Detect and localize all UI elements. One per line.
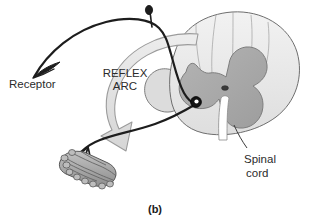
motor-neuron-cell-body — [191, 97, 202, 108]
label-receptor: Receptor — [9, 78, 56, 90]
label-reflex-arc-line2: ARC — [113, 80, 137, 92]
dorsal-root-ganglion — [145, 5, 152, 14]
reflex-arc-figure: Receptor REFLEX ARC Spinal cord (b) — [0, 0, 310, 223]
spinal-cord-cross-section — [141, 12, 303, 143]
figure-caption: (b) — [148, 203, 162, 215]
central-canal — [222, 86, 229, 91]
label-reflex-arc-line1: REFLEX — [103, 67, 148, 79]
skeletal-muscle-bundle — [59, 150, 116, 190]
label-spinal-cord-line1: Spinal — [244, 153, 276, 165]
ganglion-stalk — [150, 13, 152, 27]
label-spinal-cord-line2: cord — [246, 167, 268, 179]
